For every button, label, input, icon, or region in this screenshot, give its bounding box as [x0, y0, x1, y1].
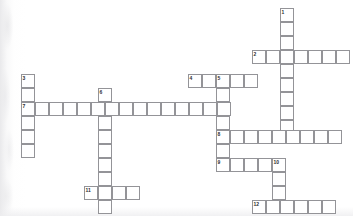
- crossword-cell[interactable]: [294, 50, 308, 64]
- cell-letter: [120, 103, 134, 117]
- crossword-cell[interactable]: [112, 186, 126, 200]
- crossword-cell[interactable]: [258, 158, 272, 172]
- crossword-cell-numbered[interactable]: 7: [21, 102, 35, 116]
- crossword-cell[interactable]: [21, 144, 35, 158]
- crossword-cell[interactable]: [294, 200, 308, 214]
- cell-letter: [273, 173, 287, 187]
- crossword-cell[interactable]: [258, 130, 272, 144]
- crossword-cell-numbered[interactable]: 2: [252, 50, 266, 64]
- crossword-cell[interactable]: [300, 130, 314, 144]
- crossword-cell[interactable]: [308, 200, 322, 214]
- crossword-cell[interactable]: [98, 116, 112, 130]
- crossword-cell[interactable]: [272, 186, 286, 200]
- crossword-cell[interactable]: [272, 130, 286, 144]
- cell-letter: [281, 65, 295, 79]
- cell-letter: [253, 51, 267, 65]
- crossword-cell-numbered[interactable]: 5: [216, 74, 230, 88]
- crossword-cell[interactable]: [230, 74, 244, 88]
- crossword-cell[interactable]: [244, 130, 258, 144]
- crossword-cell[interactable]: [328, 130, 342, 144]
- crossword-cell[interactable]: [280, 64, 294, 78]
- crossword-cell[interactable]: [314, 130, 328, 144]
- cell-letter: [203, 75, 217, 89]
- crossword-cell[interactable]: [98, 144, 112, 158]
- crossword-cell[interactable]: [21, 116, 35, 130]
- crossword-cell-numbered[interactable]: 6: [98, 88, 112, 102]
- crossword-cell[interactable]: [203, 102, 217, 116]
- crossword-cell[interactable]: [230, 130, 244, 144]
- crossword-cell[interactable]: [322, 50, 336, 64]
- cell-letter: [190, 103, 204, 117]
- crossword-cell[interactable]: [244, 158, 258, 172]
- crossword-cell[interactable]: [98, 200, 112, 214]
- crossword-cell[interactable]: [189, 102, 203, 116]
- crossword-cell[interactable]: [280, 50, 294, 64]
- crossword-cell-numbered[interactable]: 3: [21, 74, 35, 88]
- crossword-cell[interactable]: [322, 200, 336, 214]
- crossword-cell[interactable]: [175, 102, 189, 116]
- crossword-cell[interactable]: [119, 102, 133, 116]
- cell-letter: [281, 201, 295, 215]
- crossword-cell[interactable]: [98, 158, 112, 172]
- cell-letter: [281, 9, 295, 23]
- crossword-cell[interactable]: [98, 172, 112, 186]
- crossword-cell[interactable]: [98, 186, 112, 200]
- crossword-cell-numbered[interactable]: 11: [84, 186, 98, 200]
- cell-letter: [176, 103, 190, 117]
- crossword-cell[interactable]: [147, 102, 161, 116]
- cell-letter: [99, 201, 113, 215]
- crossword-cell[interactable]: [126, 186, 140, 200]
- crossword-cell[interactable]: [133, 102, 147, 116]
- cell-letter: [301, 131, 315, 145]
- crossword-cell[interactable]: [280, 106, 294, 120]
- crossword-cell[interactable]: [217, 102, 231, 116]
- cell-letter: [273, 187, 287, 201]
- cell-letter: [204, 103, 218, 117]
- cell-letter: [99, 173, 113, 187]
- crossword-cell[interactable]: [280, 36, 294, 50]
- crossword-cell[interactable]: [280, 92, 294, 106]
- cell-letter: [231, 75, 245, 89]
- cell-letter: [113, 187, 127, 201]
- crossword-cell[interactable]: [280, 200, 294, 214]
- crossword-cell-numbered[interactable]: 1: [280, 8, 294, 22]
- crossword-cell[interactable]: [98, 130, 112, 144]
- crossword-cell[interactable]: [202, 74, 216, 88]
- crossword-cell[interactable]: [105, 102, 119, 116]
- crossword-cell[interactable]: [77, 102, 91, 116]
- crossword-cell[interactable]: [280, 78, 294, 92]
- crossword-cell[interactable]: [216, 116, 230, 130]
- crossword-cell-numbered[interactable]: 9: [216, 158, 230, 172]
- crossword-cell-numbered[interactable]: 12: [252, 200, 266, 214]
- crossword-cell[interactable]: [266, 50, 280, 64]
- cell-letter: [267, 201, 281, 215]
- cell-letter: [127, 187, 141, 201]
- crossword-cell[interactable]: [336, 50, 350, 64]
- crossword-cell[interactable]: [286, 130, 300, 144]
- crossword-cell[interactable]: [216, 88, 230, 102]
- crossword-cell[interactable]: [272, 172, 286, 186]
- crossword-cell[interactable]: [49, 102, 63, 116]
- cell-letter: [22, 131, 36, 145]
- cell-letter: [281, 107, 295, 121]
- crossword-cell[interactable]: [161, 102, 175, 116]
- crossword-cell[interactable]: [216, 144, 230, 158]
- crossword-cell[interactable]: [308, 50, 322, 64]
- crossword-cell[interactable]: [21, 130, 35, 144]
- cell-letter: [217, 145, 231, 159]
- crossword-cell[interactable]: [63, 102, 77, 116]
- crossword-cell-numbered[interactable]: 10: [272, 158, 286, 172]
- crossword-cell[interactable]: [35, 102, 49, 116]
- cell-letter: [245, 75, 259, 89]
- crossword-cell-numbered[interactable]: 8: [216, 130, 230, 144]
- crossword-cell[interactable]: [230, 158, 244, 172]
- cell-letter: [218, 103, 232, 117]
- crossword-cell[interactable]: [280, 22, 294, 36]
- crossword-cell[interactable]: [91, 102, 105, 116]
- crossword-cell-numbered[interactable]: 4: [188, 74, 202, 88]
- cell-letter: [99, 131, 113, 145]
- crossword-cell[interactable]: [21, 88, 35, 102]
- crossword-cell[interactable]: [244, 74, 258, 88]
- cell-letter: [231, 131, 245, 145]
- crossword-cell[interactable]: [266, 200, 280, 214]
